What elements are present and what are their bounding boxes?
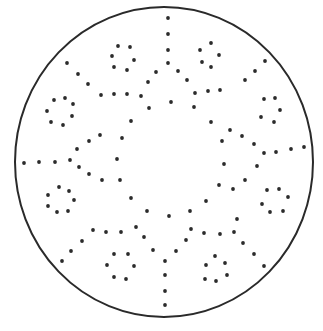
dot (125, 68, 129, 72)
dot (174, 249, 178, 253)
dot (204, 199, 208, 203)
dot (37, 160, 41, 164)
dot (116, 44, 120, 48)
bottom-right-small-circle-group (203, 254, 229, 283)
dot (252, 252, 256, 256)
dot (166, 16, 170, 20)
dot (146, 80, 150, 84)
dot (115, 157, 119, 161)
dot (185, 78, 189, 82)
dot (46, 204, 50, 208)
dot (231, 187, 235, 191)
dot (53, 160, 57, 164)
dot (252, 142, 256, 146)
bottom-spoke-group (163, 259, 167, 307)
dot (200, 60, 204, 64)
dot (67, 189, 71, 193)
dot (87, 172, 91, 176)
dot (49, 120, 53, 124)
dot (184, 238, 188, 242)
dot (132, 58, 136, 62)
dot (166, 61, 170, 65)
dot (240, 134, 244, 138)
dot (286, 195, 290, 199)
dot (151, 248, 155, 252)
top-right-small-circle-group (198, 41, 221, 69)
dot (302, 145, 306, 149)
upper-right-diagonal-group (243, 59, 267, 82)
dot (119, 230, 123, 234)
side-connectors-group (75, 128, 259, 191)
lower-left-small-circle-group (46, 185, 76, 214)
dot (142, 235, 146, 239)
dot (66, 209, 70, 213)
dot (76, 72, 80, 76)
dot (87, 139, 91, 143)
dot (134, 225, 138, 229)
dot (262, 151, 266, 155)
dot (225, 273, 229, 277)
dot (105, 263, 109, 267)
dot (278, 108, 282, 112)
dot (132, 264, 136, 268)
dot (91, 228, 95, 232)
dot (129, 196, 133, 200)
dot (289, 147, 293, 151)
dot (77, 165, 81, 169)
dot (125, 92, 129, 96)
dot (243, 178, 247, 182)
dot (70, 114, 74, 118)
dot (126, 252, 130, 256)
dotted-radial-figure (0, 0, 323, 331)
dot (228, 128, 232, 132)
dot (241, 241, 245, 245)
central-ring-group (115, 100, 226, 218)
dot (57, 185, 61, 189)
dot (223, 261, 227, 265)
right-spoke-group (262, 145, 306, 155)
dot (72, 198, 76, 202)
dot (198, 48, 202, 52)
dot (86, 82, 90, 86)
dot (222, 162, 226, 166)
dot (217, 53, 221, 57)
dot (277, 187, 281, 191)
dot (218, 232, 222, 236)
dot (52, 98, 56, 102)
dot (60, 259, 64, 263)
top-connectors-group (99, 69, 222, 98)
dot (98, 133, 102, 137)
dot (232, 230, 236, 234)
dot (63, 96, 67, 100)
dot (202, 231, 206, 235)
dot (55, 210, 59, 214)
bottom-left-small-circle-group (105, 252, 136, 281)
dot (188, 209, 192, 213)
dot (176, 69, 180, 73)
upper-left-diagonal-group (65, 61, 90, 86)
dot (124, 277, 128, 281)
dot (235, 217, 239, 221)
dot (163, 289, 167, 293)
dot (163, 303, 167, 307)
lower-left-diagonal-group (60, 239, 84, 263)
outer-circle (15, 7, 313, 317)
dot (206, 89, 210, 93)
dot (260, 202, 264, 206)
lower-right-small-circle-group (260, 187, 290, 214)
dot (169, 100, 173, 104)
dot (203, 277, 207, 281)
dot (263, 59, 267, 63)
dot (68, 158, 72, 162)
dot (112, 92, 116, 96)
dot (75, 147, 79, 151)
dot (259, 115, 263, 119)
dot (120, 136, 124, 140)
dot (69, 249, 73, 253)
top-spoke-group (166, 16, 170, 65)
dot (189, 227, 193, 231)
dot (255, 164, 259, 168)
dot (128, 45, 132, 49)
dot (163, 259, 167, 263)
dot (217, 183, 221, 187)
